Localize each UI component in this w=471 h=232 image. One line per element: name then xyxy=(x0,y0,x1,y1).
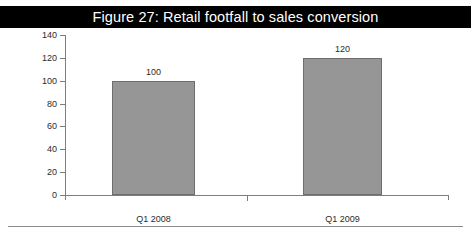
figure-title-band: Figure 27: Retail footfall to sales conv… xyxy=(0,6,471,28)
x-axis-category-label: Q1 2009 xyxy=(325,214,360,224)
bottom-divider-rule xyxy=(8,226,463,227)
x-axis-category-separator-tick xyxy=(247,195,248,201)
y-axis-line xyxy=(65,35,66,196)
x-axis-category-label: Q1 2008 xyxy=(136,214,171,224)
x-axis-end-cap xyxy=(448,195,449,200)
y-axis-tick-label: 60 xyxy=(13,121,65,131)
x-axis-line xyxy=(65,195,449,196)
y-axis-tick-label: 20 xyxy=(13,167,65,177)
y-axis-tick-label: 0 xyxy=(13,190,65,200)
x-axis-start-cap xyxy=(65,195,66,200)
y-axis-tick-label: 140 xyxy=(13,30,65,40)
bar-chart: 020406080100120140 100120 Q1 2008Q1 2009 xyxy=(0,28,471,214)
y-axis-tick-label: 40 xyxy=(13,144,65,154)
y-axis-tick-label: 80 xyxy=(13,99,65,109)
y-axis-tick-label: 100 xyxy=(13,76,65,86)
bar xyxy=(303,58,382,195)
figure-title: Figure 27: Retail footfall to sales conv… xyxy=(93,9,379,25)
page-top-sliver xyxy=(0,0,471,5)
bar-value-label: 120 xyxy=(335,44,350,54)
bar xyxy=(112,81,195,195)
bar-value-label: 100 xyxy=(146,67,161,77)
y-axis-tick-label: 120 xyxy=(13,53,65,63)
